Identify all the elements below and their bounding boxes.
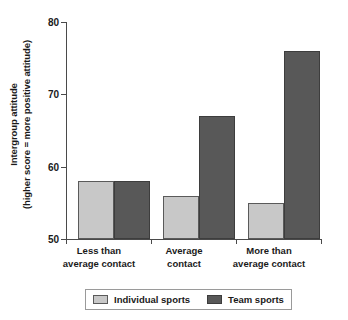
legend-label-individual-sports: Individual sports [114, 294, 190, 305]
bar-more-than-average-contact-team-sports [284, 51, 320, 239]
x-axis-category-label-1-line2: contact [143, 258, 225, 271]
bar-more-than-average-contact-individual-sports [248, 203, 284, 239]
y-axis-title-line2: (higher score = more positive attitude) [20, 40, 33, 209]
y-axis-title: Intergroup attitude (higher score = more… [0, 0, 40, 248]
bar-less-than-average-contact-individual-sports [78, 181, 114, 239]
x-axis-category-label-0-line1: Less than [58, 245, 140, 258]
x-axis-category-label-2: More than average contact [228, 245, 310, 270]
legend-item-individual-sports: Individual sports [93, 294, 190, 305]
y-tick-label-80: 80 [48, 17, 59, 28]
bar-average-contact-team-sports [199, 116, 235, 239]
x-axis-category-label-1-line1: Average [143, 245, 225, 258]
x-tick-3 [321, 239, 322, 244]
y-tick-label-60: 60 [48, 161, 59, 172]
x-axis-category-label-0: Less than average contact [58, 245, 140, 270]
x-axis-category-label-2-line1: More than [228, 245, 310, 258]
bar-less-than-average-contact-team-sports [114, 181, 150, 239]
legend-swatch-individual-sports-icon [93, 295, 108, 304]
plot-area: 50 60 70 80 [66, 22, 322, 239]
x-tick-2 [236, 239, 237, 244]
x-axis-line [66, 239, 322, 240]
x-axis-category-label-1: Average contact [143, 245, 225, 270]
legend-label-team-sports: Team sports [228, 294, 284, 305]
y-tick-label-70: 70 [48, 89, 59, 100]
legend-item-team-sports: Team sports [207, 294, 284, 305]
bar-chart-figure: Intergroup attitude (higher score = more… [0, 0, 348, 320]
x-axis-category-label-2-line2: average contact [228, 258, 310, 271]
legend-swatch-team-sports-icon [207, 295, 222, 304]
x-tick-0 [66, 239, 67, 244]
y-axis-line [66, 22, 67, 239]
x-tick-1 [151, 239, 152, 244]
y-tick-label-50: 50 [48, 234, 59, 245]
legend: Individual sports Team sports [85, 289, 292, 310]
y-axis-title-line1: Intergroup attitude [8, 40, 21, 209]
x-axis-category-label-0-line2: average contact [58, 258, 140, 271]
bar-average-contact-individual-sports [163, 196, 199, 239]
